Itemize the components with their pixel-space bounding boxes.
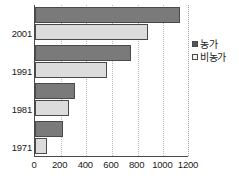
- bar-binongga-1971[interactable]: [35, 138, 47, 154]
- gridline-1200: [188, 5, 189, 156]
- bar-nongga-1981[interactable]: [35, 83, 75, 99]
- y-axis-tick-label: 2001: [0, 29, 32, 39]
- x-axis-tick-label: 600: [103, 159, 118, 170]
- bar-nongga-1971[interactable]: [35, 121, 63, 137]
- x-axis-tick-label: 800: [129, 159, 144, 170]
- x-axis-tick-label: 1000: [152, 159, 172, 170]
- x-axis-tick-label: 400: [78, 159, 93, 170]
- bar-binongga-1991[interactable]: [35, 62, 107, 78]
- legend-swatch-icon: [192, 54, 198, 60]
- legend-item-binongga[interactable]: 비농가: [192, 50, 239, 63]
- y-axis-tick-label: 1991: [0, 67, 32, 77]
- bar-binongga-2001[interactable]: [35, 24, 148, 40]
- y-axis-tick-label: 1981: [0, 105, 32, 115]
- bar-chart: 2001 1991 1981 1971: [0, 0, 239, 182]
- legend-label: 비농가: [200, 49, 226, 64]
- bar-nongga-2001[interactable]: [35, 7, 180, 23]
- bars-layer: [35, 5, 188, 156]
- x-axis-tick-label: 1200: [178, 159, 198, 170]
- x-axis-labels: 0 200 400 600 800 1000 1200: [34, 159, 188, 173]
- plot-area: [34, 5, 188, 157]
- x-axis-tick-label: 200: [52, 159, 67, 170]
- y-axis-labels: 2001 1991 1981 1971: [0, 5, 32, 157]
- y-axis-tick-label: 1971: [0, 143, 32, 153]
- legend: 농가 비농가: [192, 37, 239, 63]
- legend-swatch-icon: [192, 41, 198, 47]
- bar-nongga-1991[interactable]: [35, 45, 131, 61]
- x-axis-tick-label: 0: [31, 159, 36, 170]
- bar-binongga-1981[interactable]: [35, 100, 69, 116]
